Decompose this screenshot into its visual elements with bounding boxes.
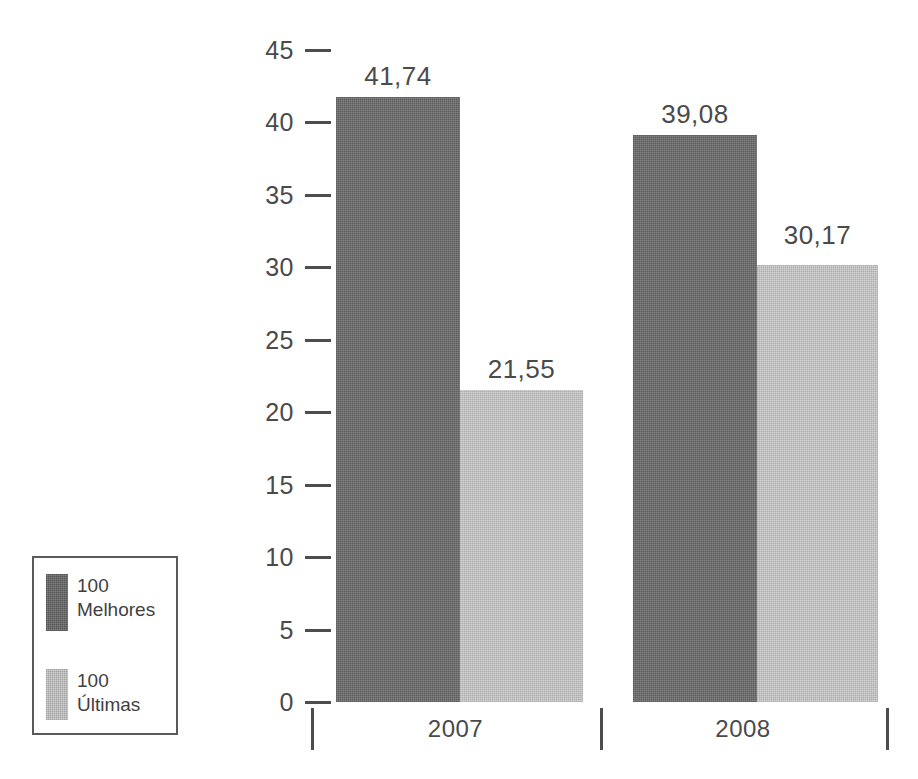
x-axis-label-2007: 2007 <box>311 717 600 741</box>
y-axis-tick-mark <box>305 339 331 342</box>
y-axis-tick-label: 45 <box>265 38 294 63</box>
bar-2008-melhores <box>633 135 757 702</box>
y-axis-tick-label: 0 <box>280 690 294 715</box>
y-axis-tick-mark <box>305 556 331 559</box>
x-axis-label-2008: 2008 <box>600 717 886 741</box>
y-axis-tick-mark <box>305 484 331 487</box>
legend-label-line2: Últimas <box>77 693 140 717</box>
chart-legend: 100 Melhores 100 Últimas <box>32 556 178 735</box>
dark-gray-swatch <box>46 574 68 631</box>
y-axis-tick-mark <box>305 411 331 414</box>
legend-label-line1: 100 <box>77 669 140 693</box>
y-axis-tick-label: 30 <box>265 255 294 280</box>
bar-2007-melhores <box>336 97 460 702</box>
bar-chart: 45 40 35 30 25 20 15 10 5 0 41,74 21,55 <box>0 0 918 779</box>
y-axis-tick-label: 20 <box>265 400 294 425</box>
y-axis-tick-mark <box>305 629 331 632</box>
y-axis-tick-mark <box>305 701 331 704</box>
y-axis-tick-label: 10 <box>265 545 294 570</box>
legend-entry-melhores: 100 Melhores <box>46 574 155 631</box>
legend-label-line2: Melhores <box>77 598 155 622</box>
y-axis-tick-mark <box>305 266 331 269</box>
bar-value-label-2007-ultimas: 21,55 <box>460 356 583 382</box>
y-axis-tick-label: 25 <box>265 328 294 353</box>
bar-value-label-2008-melhores: 39,08 <box>633 101 757 127</box>
bar-value-label-2008-ultimas: 30,17 <box>757 222 878 248</box>
bar-2008-ultimas <box>757 265 878 702</box>
legend-label-line1: 100 <box>77 574 155 598</box>
bar-value-label-2007-melhores: 41,74 <box>336 63 460 89</box>
y-axis-tick-mark <box>305 194 331 197</box>
y-axis-tick-label: 5 <box>280 618 294 643</box>
legend-entry-ultimas: 100 Últimas <box>46 669 140 720</box>
y-axis-tick-label: 15 <box>265 473 294 498</box>
x-axis-separator-right <box>886 708 889 750</box>
y-axis-tick-label: 40 <box>265 110 294 135</box>
y-axis-tick-mark <box>305 49 331 52</box>
bar-2007-ultimas <box>460 390 583 702</box>
y-axis-tick-mark <box>305 121 331 124</box>
light-gray-swatch <box>46 669 68 720</box>
legend-label-ultimas: 100 Últimas <box>77 669 140 717</box>
y-axis-tick-label: 35 <box>265 183 294 208</box>
legend-label-melhores: 100 Melhores <box>77 574 155 622</box>
